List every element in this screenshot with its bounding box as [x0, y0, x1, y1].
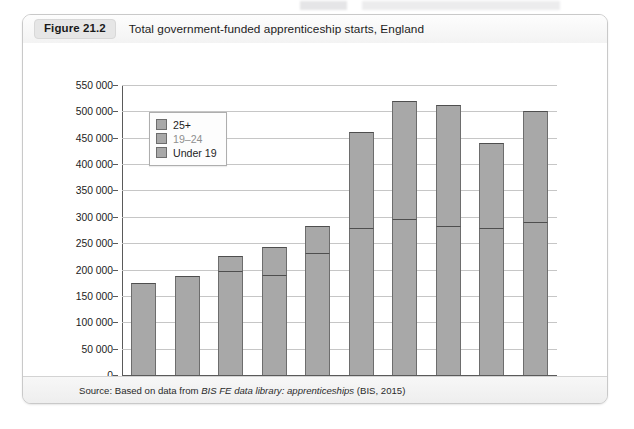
- bar-segment-19-24: [479, 228, 504, 312]
- gridline: [122, 85, 557, 86]
- legend-swatch-icon: [156, 133, 167, 144]
- y-axis-tick-label: 250 000: [76, 238, 113, 249]
- y-axis-tick-mark: [113, 270, 118, 271]
- y-axis-tick-label: 150 000: [76, 290, 113, 301]
- y-axis-tick-label: 450 000: [76, 132, 113, 143]
- bar-segment-under-19: [305, 313, 330, 375]
- bar-segment-19-24: [523, 222, 548, 308]
- bar-stack: [262, 247, 287, 375]
- bar-segment-19-24: [262, 275, 287, 322]
- bar-segment-under-19: [392, 306, 417, 375]
- bar-segment-19-24: [436, 226, 461, 312]
- figure-panel: Figure 21.2 Total government-funded appr…: [22, 14, 608, 404]
- y-axis-tick-label: 500 000: [76, 106, 113, 117]
- y-axis-tick-mark: [113, 190, 118, 191]
- bar-stack: [523, 111, 548, 375]
- bar-segment-25-: [305, 226, 330, 252]
- y-axis-tick-mark: [113, 111, 118, 112]
- bar-segment-under-19: [262, 322, 287, 375]
- y-axis-tick-label: 100 000: [76, 317, 113, 328]
- bar-segment-25-: [523, 111, 548, 221]
- legend-swatch-icon: [156, 119, 167, 130]
- y-axis-tick-label: 400 000: [76, 159, 113, 170]
- legend-item-label: 19–24: [173, 133, 202, 145]
- bar-segment-under-19: [479, 312, 504, 375]
- bar-segment-under-19: [436, 312, 461, 375]
- source-note-bar: Source: Based on data from BIS FE data l…: [23, 376, 607, 403]
- bar-segment-19-24: [131, 283, 156, 321]
- y-axis-tick-mark: [113, 138, 118, 139]
- bar-segment-19-24: [349, 228, 374, 305]
- bar-stack: [131, 283, 156, 375]
- bar-stack: [392, 101, 417, 375]
- figure-number-badge: Figure 21.2: [34, 19, 116, 40]
- bar-segment-19-24: [392, 219, 417, 306]
- bar-segment-19-24: [218, 271, 243, 318]
- source-prefix: Source: Based on data from: [79, 385, 201, 396]
- bar-stack: [175, 276, 200, 375]
- page-top-scan-artifact: [300, 1, 560, 10]
- y-axis-tick-label: 200 000: [76, 264, 113, 275]
- legend-item: 25+: [156, 118, 217, 131]
- bar-segment-25-: [436, 105, 461, 226]
- y-axis-tick-label: 550 000: [76, 80, 113, 91]
- bar-segment-25-: [479, 143, 504, 228]
- y-axis-tick-label: 350 000: [76, 185, 113, 196]
- source-suffix: (BIS, 2015): [354, 385, 405, 396]
- figure-title: Total government-funded apprenticeship s…: [129, 22, 424, 36]
- legend-item-label: Under 19: [173, 147, 217, 159]
- y-axis-tick-mark: [113, 217, 118, 218]
- bar-segment-19-24: [175, 276, 200, 319]
- bar-segment-25-: [349, 132, 374, 228]
- y-axis-labels: 050 000100 000150 000200 000250 000300 0…: [23, 85, 113, 376]
- bar-stack: [305, 226, 330, 375]
- y-axis-tick-mark: [113, 85, 118, 86]
- y-axis-tick-label: 300 000: [76, 211, 113, 222]
- source-note: Source: Based on data from BIS FE data l…: [79, 385, 405, 396]
- source-citation-title: BIS FE data library: apprenticeships: [201, 385, 354, 396]
- bar-segment-25-: [218, 256, 243, 270]
- bar-segment-under-19: [349, 305, 374, 375]
- y-axis-tick-mark: [113, 322, 118, 323]
- y-axis-tick-mark: [113, 164, 118, 165]
- legend-swatch-icon: [156, 147, 167, 158]
- legend-item: Under 19: [156, 146, 217, 159]
- y-axis-tick-mark: [113, 243, 118, 244]
- bar-segment-19-24: [305, 253, 330, 314]
- bar-segment-under-19: [218, 318, 243, 375]
- y-axis-tick-label: 50 000: [82, 343, 114, 354]
- bar-stack: [479, 143, 504, 375]
- figure-header: Figure 21.2 Total government-funded appr…: [23, 15, 607, 44]
- y-axis-tick-mark: [113, 349, 118, 350]
- bar-stack: [218, 256, 243, 375]
- legend-item: 19–24: [156, 132, 217, 145]
- chart-canvas: 050 000100 000150 000200 000250 000300 0…: [23, 43, 607, 377]
- bar-segment-under-19: [175, 320, 200, 375]
- bar-segment-under-19: [523, 308, 548, 375]
- bar-stack: [436, 105, 461, 375]
- bar-segment-under-19: [131, 321, 156, 375]
- legend-item-label: 25+: [173, 119, 191, 131]
- y-axis-tick-mark: [113, 296, 118, 297]
- chart-legend: 25+19–24Under 19: [149, 112, 227, 166]
- bar-segment-25-: [392, 101, 417, 220]
- bar-segment-25-: [262, 247, 287, 274]
- bar-stack: [349, 132, 374, 375]
